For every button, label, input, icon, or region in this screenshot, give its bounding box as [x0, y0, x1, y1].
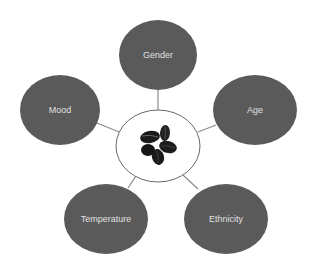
node-mood: Mood [20, 75, 100, 145]
center-hub [116, 110, 200, 182]
connector-temperature [128, 176, 136, 188]
node-ethnicity: Ethnicity [184, 184, 268, 254]
node-temperature: Temperature [64, 184, 148, 254]
diagram-canvas: Gender Age Ethnicity Temperature Mood [0, 0, 315, 268]
node-label-gender: Gender [143, 50, 173, 60]
node-age: Age [213, 75, 297, 145]
node-gender: Gender [119, 20, 197, 90]
connector-age [198, 125, 216, 132]
connector-ethnicity [183, 175, 198, 189]
node-label-mood: Mood [49, 105, 72, 115]
node-label-age: Age [247, 105, 263, 115]
connector-mood [97, 123, 119, 132]
node-label-ethnicity: Ethnicity [209, 214, 244, 224]
node-label-temperature: Temperature [81, 214, 132, 224]
